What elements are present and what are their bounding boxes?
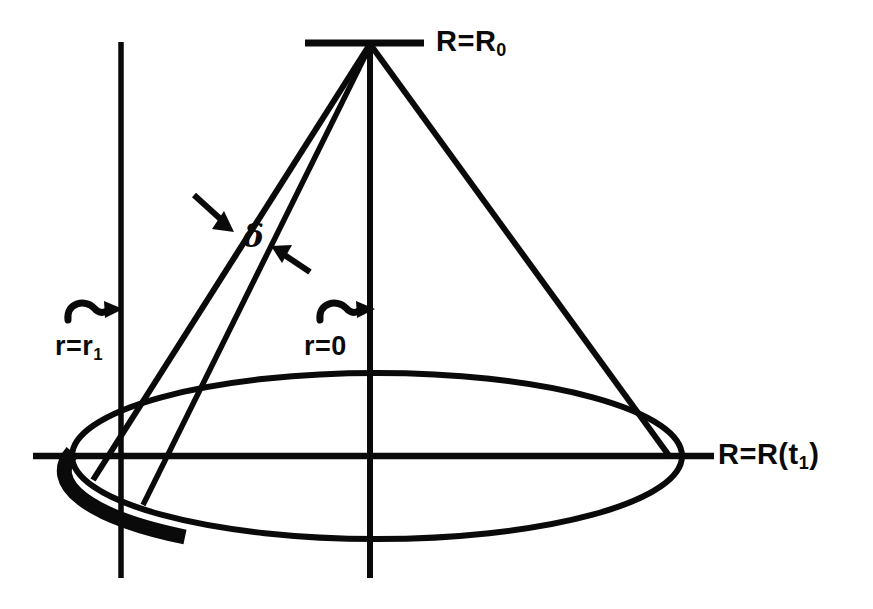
label-r-r1-base: r=r xyxy=(55,331,93,361)
cone-edge-right xyxy=(370,44,670,457)
label-r-r1-subscript: 1 xyxy=(93,345,103,364)
label-R-Rt1-suffix: ) xyxy=(809,438,819,470)
cone-diagram-svg xyxy=(0,0,873,609)
delta-arrow-upper-left xyxy=(194,195,234,232)
label-delta-thickness: δ xyxy=(243,221,264,252)
inner-slant-line xyxy=(143,44,371,505)
label-r-0-base: r=0 xyxy=(304,331,347,361)
label-R-R0-subscript: 0 xyxy=(496,40,507,60)
label-R-R0-base: R=R xyxy=(436,25,496,57)
label-R-equals-R-t1: R=R(t1) xyxy=(718,440,819,469)
label-r-equals-r1: r=r1 xyxy=(55,333,103,360)
thick-shaded-arc xyxy=(64,452,185,537)
delta-arrow-lower-right xyxy=(271,245,310,272)
r1-curly-arrow xyxy=(68,301,123,320)
r0-curly-arrow xyxy=(320,301,375,320)
delta-glyph: δ xyxy=(243,218,264,254)
cone-edge-left xyxy=(93,44,370,480)
label-R-equals-R0: R=R0 xyxy=(436,27,507,56)
label-r-equals-0: r=0 xyxy=(304,333,347,360)
figure-canvas: R=R0 R=R(t1) r=r1 r=0 δ xyxy=(0,0,873,609)
label-R-Rt1-prefix: R=R(t xyxy=(718,438,799,470)
label-R-Rt1-subscript: 1 xyxy=(799,453,810,473)
